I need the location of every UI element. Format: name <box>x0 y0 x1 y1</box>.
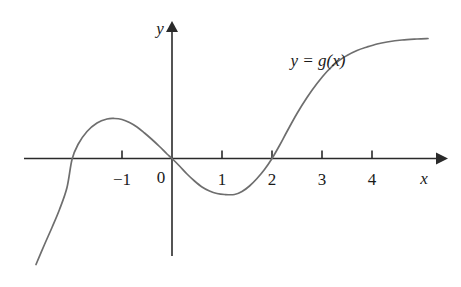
x-tick-label-4: 4 <box>368 170 377 189</box>
x-tick-label-2: 2 <box>268 170 277 189</box>
function-curve <box>36 39 428 265</box>
y-axis-label: y <box>154 19 164 38</box>
x-axis-arrowhead <box>436 153 448 165</box>
x-tick-label-3: 3 <box>318 170 327 189</box>
figure-canvas: −1 0 1 2 3 4 x y y = g(x) <box>0 0 461 287</box>
x-axis-label: x <box>419 169 428 188</box>
y-axis-arrowhead <box>166 21 178 32</box>
function-graph: −1 0 1 2 3 4 x y y = g(x) <box>0 0 461 287</box>
x-tick-label-1: 1 <box>218 170 227 189</box>
curve-equation-label: y = g(x) <box>289 51 346 70</box>
x-tick-label-minus1: −1 <box>113 170 131 189</box>
origin-label: 0 <box>157 168 166 187</box>
